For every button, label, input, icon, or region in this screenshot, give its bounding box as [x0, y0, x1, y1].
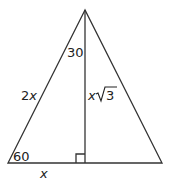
hypotenuse-label: 2x — [21, 88, 37, 103]
angle-label-30: 30 — [67, 45, 84, 60]
angle-label-60: 60 — [13, 149, 30, 164]
triangle-diagram: 30 2x x 3 60 x — [0, 0, 172, 183]
svg-text:x: x — [87, 88, 96, 103]
svg-text:3: 3 — [106, 88, 114, 103]
right-angle-marker — [76, 154, 85, 163]
altitude-label: x 3 — [87, 87, 117, 103]
base-label: x — [39, 166, 48, 181]
